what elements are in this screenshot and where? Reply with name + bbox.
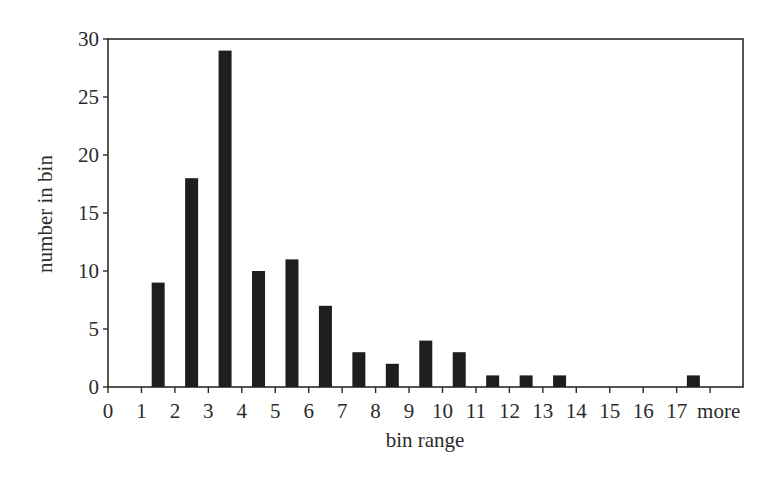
bar-1-2	[152, 283, 165, 387]
plot-border	[108, 39, 743, 387]
x-tick-label: 13	[532, 399, 553, 423]
x-tick-label: 8	[370, 399, 381, 423]
x-tick-label: 4	[237, 399, 248, 423]
x-tick-label: more	[697, 399, 740, 423]
y-tick-label: 5	[89, 317, 100, 341]
bar-4-5	[252, 271, 265, 387]
plot-frame	[108, 39, 743, 387]
bar-5-6	[285, 259, 298, 387]
x-axis-title: bin range	[386, 428, 465, 452]
bar-17-more	[687, 375, 700, 387]
bar-6-7	[319, 306, 332, 387]
x-tick-label: 15	[599, 399, 620, 423]
x-tick-label: 16	[633, 399, 654, 423]
x-tick-label: 7	[337, 399, 348, 423]
y-tick-label: 0	[89, 375, 100, 399]
bar-9-10	[419, 341, 432, 387]
x-tick-label: 17	[666, 399, 687, 423]
x-tick-label: 9	[404, 399, 415, 423]
bar-11-12	[486, 375, 499, 387]
x-tick-label: 3	[203, 399, 214, 423]
x-tick-label: 2	[170, 399, 181, 423]
bar-13-14	[553, 375, 566, 387]
y-tick-label: 20	[78, 143, 99, 167]
bar-8-9	[386, 364, 399, 387]
bar-7-8	[352, 352, 365, 387]
x-axis: 01234567891011121314151617more	[103, 387, 741, 423]
y-tick-label: 25	[78, 85, 99, 109]
bar-3-4	[219, 51, 232, 387]
x-tick-label: 0	[103, 399, 114, 423]
y-tick-label: 15	[78, 201, 99, 225]
bar-2-3	[185, 178, 198, 387]
x-tick-label: 5	[270, 399, 281, 423]
bars	[152, 51, 700, 387]
x-tick-label: 11	[466, 399, 486, 423]
bar-10-11	[453, 352, 466, 387]
bar-12-13	[520, 375, 533, 387]
y-tick-label: 30	[78, 27, 99, 51]
histogram-chart: 051015202530 01234567891011121314151617m…	[0, 0, 781, 481]
x-tick-label: 14	[566, 399, 588, 423]
y-axis: 051015202530	[78, 27, 108, 399]
y-tick-label: 10	[78, 259, 99, 283]
x-tick-label: 12	[499, 399, 520, 423]
x-tick-label: 1	[136, 399, 147, 423]
x-tick-label: 6	[303, 399, 314, 423]
y-axis-title: number in bin	[33, 155, 57, 273]
x-tick-label: 10	[432, 399, 453, 423]
